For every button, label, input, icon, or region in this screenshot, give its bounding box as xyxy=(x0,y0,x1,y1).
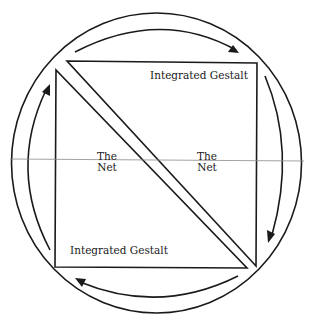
left-net-label: The Net xyxy=(92,151,122,173)
lower-integrated-gestalt-label: Integrated Gestalt xyxy=(70,245,168,256)
right-net-label: The Net xyxy=(192,151,222,173)
right-arrow-arc xyxy=(265,76,282,235)
bottom-arrow-arc xyxy=(80,276,238,297)
bottom-arrowhead-icon xyxy=(75,278,86,287)
right-arrowhead-icon xyxy=(267,230,275,243)
top-arrow-arc xyxy=(75,29,236,52)
left-arrow-arc xyxy=(28,90,50,250)
left-net-line2: Net xyxy=(92,162,122,173)
right-net-line2: Net xyxy=(192,162,222,173)
gestalt-cycle-diagram xyxy=(0,0,314,324)
upper-integrated-gestalt-label: Integrated Gestalt xyxy=(150,70,248,81)
